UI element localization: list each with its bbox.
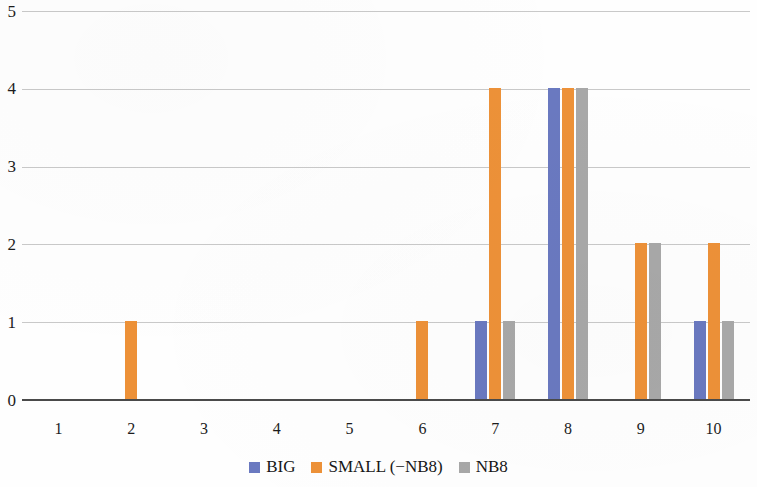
- bar-chart: 5 4 3 2 1 0 12345678910 BIGSMALL (−NB8)N…: [0, 0, 757, 487]
- legend-label: BIG: [266, 458, 295, 476]
- bar-small-nb8--cat-6: [416, 321, 428, 399]
- x-tick-label-3: 3: [184, 420, 224, 438]
- legend-item-big[interactable]: BIG: [249, 458, 295, 476]
- y-tick-label-4: 4: [0, 80, 16, 97]
- legend-label: NB8: [476, 458, 508, 476]
- legend-swatch-icon: [459, 462, 470, 473]
- bar-nb8-cat-9: [649, 243, 661, 399]
- legend-item-small-nb8-[interactable]: SMALL (−NB8): [311, 458, 442, 476]
- x-tick-label-10: 10: [694, 420, 734, 438]
- x-tick-label-5: 5: [330, 420, 370, 438]
- legend-swatch-icon: [249, 462, 260, 473]
- y-tick-label-5: 5: [0, 3, 16, 20]
- legend-swatch-icon: [311, 462, 322, 473]
- x-tick-label-1: 1: [38, 420, 78, 438]
- gridline-3: [22, 167, 750, 168]
- bar-big-cat-10: [694, 321, 706, 399]
- bar-nb8-cat-7: [503, 321, 515, 399]
- x-tick-label-2: 2: [111, 420, 151, 438]
- y-tick-label-3: 3: [0, 158, 16, 175]
- x-tick-label-7: 7: [475, 420, 515, 438]
- chart-legend: BIGSMALL (−NB8)NB8: [0, 458, 757, 476]
- legend-label: SMALL (−NB8): [328, 458, 442, 476]
- x-tick-label-8: 8: [548, 420, 588, 438]
- bar-small-nb8--cat-9: [635, 243, 647, 399]
- bar-big-cat-7: [475, 321, 487, 399]
- bar-nb8-cat-10: [722, 321, 734, 399]
- bar-nb8-cat-8: [576, 88, 588, 399]
- bar-small-nb8--cat-10: [708, 243, 720, 399]
- y-tick-label-1: 1: [0, 314, 16, 331]
- gridline-5: [22, 11, 750, 12]
- x-tick-label-9: 9: [621, 420, 661, 438]
- legend-item-nb8[interactable]: NB8: [459, 458, 508, 476]
- y-tick-label-0: 0: [0, 392, 16, 409]
- bar-small-nb8--cat-2: [125, 321, 137, 399]
- x-tick-label-4: 4: [257, 420, 297, 438]
- y-tick-label-2: 2: [0, 236, 16, 253]
- gridline-0-baseline: [22, 399, 750, 401]
- bar-small-nb8--cat-7: [489, 88, 501, 399]
- gridline-4: [22, 89, 750, 90]
- bar-big-cat-8: [548, 88, 560, 399]
- bar-small-nb8--cat-8: [562, 88, 574, 399]
- x-tick-label-6: 6: [402, 420, 442, 438]
- plot-area: [22, 11, 750, 400]
